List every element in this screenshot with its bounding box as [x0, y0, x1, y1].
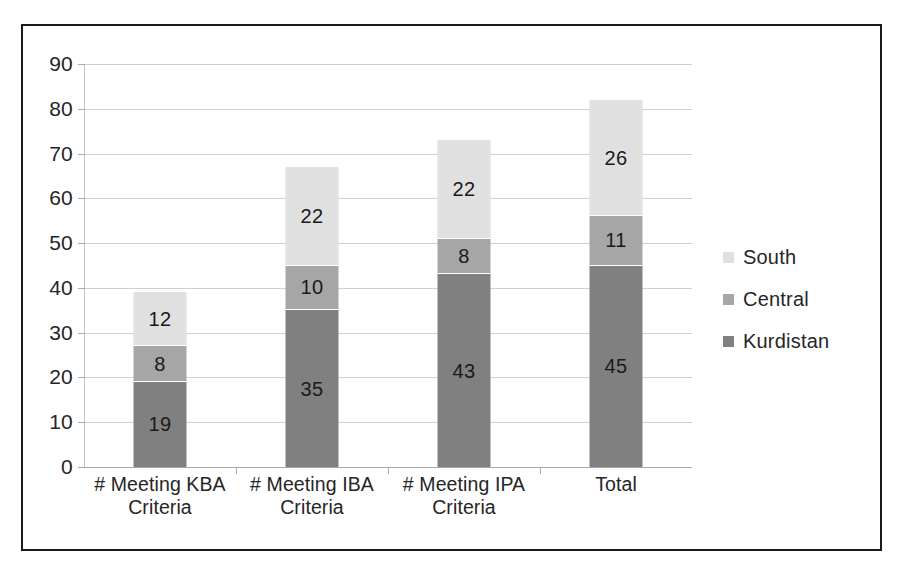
- y-axis-tick-40: [78, 288, 85, 289]
- legend-item-south[interactable]: South: [723, 236, 873, 278]
- x-axis-category-label: # Meeting KBACriteria: [84, 473, 236, 519]
- plot-area: 1281922103522843261145: [84, 64, 692, 467]
- x-axis-label-line1: Total: [540, 473, 692, 496]
- y-axis-tick-label-60: 60: [29, 187, 73, 208]
- bar-segment-value-label: 19: [149, 414, 172, 434]
- page-root: 0102030405060708090 12819221035228432611…: [0, 0, 902, 578]
- bar-segment-value-label: 22: [453, 179, 476, 199]
- legend-item-kurdistan[interactable]: Kurdistan: [723, 320, 873, 362]
- bar-segment-kurdistan[interactable]: 35: [286, 310, 339, 467]
- y-axis-tick-label-90: 90: [29, 53, 73, 74]
- y-axis-tick-label-0: 0: [29, 456, 73, 477]
- legend-item-central[interactable]: Central: [723, 278, 873, 320]
- y-axis-tick-30: [78, 333, 85, 334]
- bar-stack[interactable]: 12819: [134, 292, 187, 467]
- y-axis-tick-20: [78, 377, 85, 378]
- bar-segment-value-label: 12: [149, 309, 172, 329]
- bar-group[interactable]: 261145: [540, 64, 692, 467]
- bar-segment-value-label: 26: [605, 148, 628, 168]
- bar-segment-kurdistan[interactable]: 43: [438, 274, 491, 467]
- legend-item-label: Central: [743, 289, 809, 309]
- y-axis-tick-90: [78, 64, 85, 65]
- bar-segment-central[interactable]: 10: [286, 266, 339, 311]
- bar-segment-value-label: 8: [458, 246, 469, 266]
- x-axis-tick: [236, 467, 237, 474]
- y-axis-tick-80: [78, 109, 85, 110]
- legend-swatch-icon: [723, 252, 734, 263]
- bar-segment-kurdistan[interactable]: 19: [134, 382, 187, 467]
- x-axis-label-line1: # Meeting IBA: [236, 473, 388, 496]
- bar-stack[interactable]: 261145: [590, 100, 643, 467]
- bar-segment-central[interactable]: 11: [590, 216, 643, 265]
- legend-swatch-icon: [723, 294, 734, 305]
- bar-stack[interactable]: 221035: [286, 167, 339, 467]
- legend-item-label: Kurdistan: [743, 331, 829, 351]
- bar-group[interactable]: 12819: [84, 64, 236, 467]
- bar-group[interactable]: 221035: [236, 64, 388, 467]
- bar-segment-value-label: 45: [605, 356, 628, 376]
- y-axis-tick-label-30: 30: [29, 322, 73, 343]
- bar-segment-value-label: 22: [301, 206, 324, 226]
- y-axis-tick-label-40: 40: [29, 277, 73, 298]
- x-axis-category-label: # Meeting IPACriteria: [388, 473, 540, 519]
- y-axis-tick-label-80: 80: [29, 98, 73, 119]
- bar-segment-value-label: 43: [453, 361, 476, 381]
- bar-segment-south[interactable]: 12: [134, 292, 187, 346]
- y-axis-tick-label-20: 20: [29, 366, 73, 387]
- x-axis-label-line1: # Meeting IPA: [388, 473, 540, 496]
- x-axis-label-line2: Criteria: [84, 496, 236, 519]
- legend-swatch-icon: [723, 336, 734, 347]
- y-axis-tick-10: [78, 422, 85, 423]
- bar-segment-value-label: 10: [301, 277, 324, 297]
- x-axis-labels: # Meeting KBACriteria# Meeting IBACriter…: [84, 473, 692, 543]
- bar-segment-value-label: 8: [154, 354, 165, 374]
- y-axis-tick-70: [78, 154, 85, 155]
- x-axis-tick: [540, 467, 541, 474]
- x-axis-category-label: Total: [540, 473, 692, 496]
- y-axis-tick-label-10: 10: [29, 411, 73, 432]
- bar-segment-south[interactable]: 26: [590, 100, 643, 216]
- bar-segment-value-label: 11: [605, 230, 626, 250]
- legend-item-label: South: [743, 247, 796, 267]
- y-axis-tick-label-50: 50: [29, 232, 73, 253]
- bar-segment-central[interactable]: 8: [438, 239, 491, 275]
- figure-caption-clipped: [24, 562, 884, 578]
- x-axis-label-line2: Criteria: [236, 496, 388, 519]
- bar-segment-south[interactable]: 22: [438, 140, 491, 239]
- x-axis-category-label: # Meeting IBACriteria: [236, 473, 388, 519]
- y-axis-tick-label-70: 70: [29, 143, 73, 164]
- bar-segment-kurdistan[interactable]: 45: [590, 266, 643, 468]
- x-axis-label-line1: # Meeting KBA: [84, 473, 236, 496]
- x-axis-tick: [388, 467, 389, 474]
- bar-segment-central[interactable]: 8: [134, 346, 187, 382]
- bar-group[interactable]: 22843: [388, 64, 540, 467]
- y-axis-tick-50: [78, 243, 85, 244]
- y-axis-tick-0: [78, 467, 85, 468]
- bar-segment-value-label: 35: [301, 379, 324, 399]
- bar-stack[interactable]: 22843: [438, 140, 491, 467]
- figure-frame: 0102030405060708090 12819221035228432611…: [21, 24, 882, 551]
- x-axis-label-line2: Criteria: [388, 496, 540, 519]
- y-axis-tick-60: [78, 198, 85, 199]
- bar-segment-south[interactable]: 22: [286, 167, 339, 266]
- chart-legend: SouthCentralKurdistan: [723, 236, 873, 362]
- chart-canvas: 0102030405060708090 12819221035228432611…: [23, 26, 880, 549]
- y-axis-labels: 0102030405060708090: [23, 26, 73, 549]
